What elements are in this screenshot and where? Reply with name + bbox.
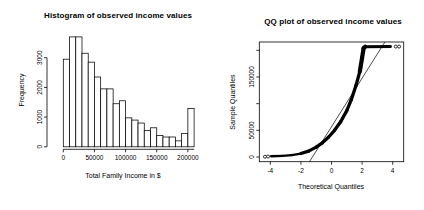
- qq-y-tick-label: 0: [248, 155, 255, 159]
- histogram-bar: [113, 104, 119, 147]
- qq-x-tick-label: 0: [330, 167, 334, 174]
- hist-x-tick-label: 150000: [146, 154, 168, 161]
- qq-band-segment: [341, 111, 347, 122]
- histogram-title: Histogram of observed income values: [44, 11, 192, 20]
- qq-band-segment: [360, 58, 362, 72]
- qq-xlabel: Theoretical Quantiles: [298, 183, 364, 190]
- histogram-bar: [70, 37, 76, 147]
- qq-outlier-point: [263, 155, 266, 158]
- histogram-ylabel: Frequency: [18, 73, 25, 106]
- histogram-xlabel: Total Family Income in $: [85, 172, 160, 179]
- hist-y-tick-label: 0: [36, 145, 43, 149]
- plots-canvas: 0500001000001500002000000100020003000-4-…: [0, 0, 424, 210]
- histogram-bar: [163, 137, 169, 147]
- histogram-bar: [88, 62, 94, 147]
- hist-x-tick-label: 50000: [85, 154, 103, 161]
- hist-y-tick-label: 1000: [36, 109, 43, 124]
- qq-band-segment: [356, 72, 360, 86]
- qq-outlier-points: [263, 45, 400, 158]
- histogram-bars: [63, 37, 194, 147]
- qq-outlier-point: [267, 155, 270, 158]
- qq-y-tick-label: 50000: [248, 121, 255, 139]
- histogram-bar: [63, 59, 69, 147]
- qq-title: QQ plot of observed income values: [264, 17, 402, 26]
- histogram-bar: [188, 108, 194, 146]
- histogram-bar: [175, 141, 181, 147]
- qq-outlier-point: [398, 45, 401, 48]
- hist-y-tick-label: 2000: [36, 80, 43, 95]
- qq-x-tick-label: -4: [267, 167, 273, 174]
- qq-band-segment: [283, 155, 292, 156]
- figure: 0500001000001500002000000100020003000-4-…: [0, 0, 424, 210]
- histogram-bar: [132, 120, 138, 147]
- qq-outlier-point: [394, 45, 397, 48]
- qq-y-tick-label: 150000: [248, 66, 255, 88]
- hist-x-tick-label: 100000: [115, 154, 137, 161]
- qq-x-tick-label: -2: [298, 167, 304, 174]
- histogram-bar: [107, 89, 113, 147]
- histogram-bar: [82, 53, 88, 147]
- histogram-bar: [144, 130, 150, 146]
- qq-x-tick-label: 4: [391, 167, 395, 174]
- histogram-bar: [138, 123, 144, 147]
- qq-plot: -4-2024050000150000: [248, 42, 404, 174]
- histogram-bar: [151, 128, 157, 147]
- histogram-bar: [119, 101, 125, 147]
- histogram-bar: [169, 137, 175, 147]
- histogram-bar: [157, 136, 163, 147]
- qq-point-band: [271, 47, 390, 157]
- qq-plot-box: [259, 42, 403, 162]
- hist-y-tick-label: 3000: [36, 50, 43, 65]
- histogram-bar: [126, 118, 132, 147]
- histogram-plot: 0500001000001500002000000100020003000: [36, 37, 199, 161]
- histogram-bar: [76, 37, 82, 147]
- qq-ylabel: Sample Quantiles: [229, 74, 236, 129]
- qq-band-segment: [351, 86, 356, 100]
- histogram-bar: [182, 133, 188, 146]
- histogram-bar: [101, 89, 107, 147]
- qq-x-tick-label: 2: [360, 167, 364, 174]
- hist-x-tick-label: 200000: [177, 154, 199, 161]
- hist-x-tick-label: 0: [61, 154, 65, 161]
- histogram-bar: [94, 77, 100, 147]
